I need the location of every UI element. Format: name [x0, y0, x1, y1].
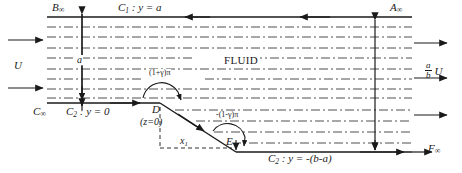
label-c2-bottom-boundary: C2 : y = -(b-a) [268, 153, 332, 165]
angle-arc-upper [143, 83, 181, 100]
label-point-d-note: (z=0) [140, 117, 162, 127]
label-angle-upper: (1+γ)π [148, 69, 171, 77]
label-point-d: D [152, 104, 160, 115]
label-point-e: E [226, 136, 233, 147]
label-angle-lower: -(1-γ)π [215, 111, 239, 119]
label-c1-boundary: C1 : y = a [118, 2, 162, 14]
label-c2-top-boundary: C2 : y = 0 [66, 106, 110, 118]
fraction-a-over-b: a b [425, 61, 432, 81]
streamline-group [47, 27, 412, 143]
label-f-infinity: F∞ [428, 143, 440, 155]
label-c-infinity: C∞ [33, 106, 46, 118]
label-velocity-right-ratio: a b U [425, 61, 442, 81]
fluid-flow-diagram: B∞ C1 : y = a A∞ U a FLUID (1+γ)π -(1-γ)… [0, 0, 462, 173]
label-fluid: FLUID [222, 55, 260, 66]
label-a-infinity: A∞ [390, 2, 402, 14]
label-velocity-left: U [14, 60, 22, 71]
label-distance-x1: x1 [180, 136, 188, 147]
diagram-canvas [0, 0, 462, 173]
label-height-a: a [76, 55, 83, 65]
label-b-infinity: B∞ [52, 2, 64, 14]
